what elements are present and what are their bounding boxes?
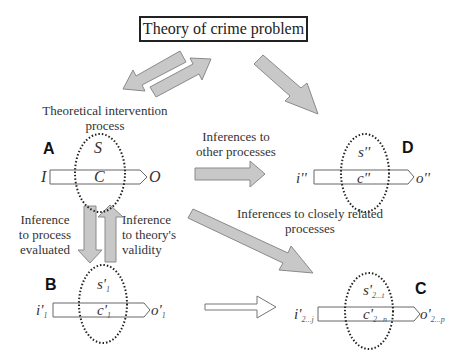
var-subscript: 1 (43, 311, 47, 320)
panel-d-input: i'' (296, 170, 307, 186)
var-main: o' (420, 306, 431, 322)
var-subscript: 1 (162, 311, 166, 320)
var-subscript: 2...p (431, 315, 445, 324)
arrow-inferences-other-processes (195, 161, 265, 187)
panel-a-content: C (94, 169, 105, 185)
label-line: Inferences to (186, 129, 286, 144)
var-subscript: 2...t (372, 291, 384, 300)
label-line: other processes (186, 144, 286, 159)
var-subscript: 2...j (301, 315, 313, 324)
panel-d-structure: s'' (358, 144, 370, 160)
panel-letter-b: B (45, 276, 57, 294)
title-text: Theory of crime problem (143, 20, 304, 38)
panel-c-structure: s'2...t (363, 282, 384, 304)
var-main: o' (151, 302, 162, 318)
panel-d-output: o'' (416, 170, 430, 186)
panel-b-content: c'1 (97, 302, 111, 324)
theory-of-crime-problem-box: Theory of crime problem (139, 16, 308, 42)
label-line: Inference (10, 212, 80, 227)
panel-a-input: I (41, 169, 46, 185)
label-line: process (35, 118, 175, 133)
var-subscript: 2...n (373, 315, 387, 324)
panel-b-structure: s'1 (97, 276, 110, 298)
label-line: processes (220, 221, 400, 236)
var-main: s' (363, 282, 372, 298)
arrow-inference-process-evaluated (78, 206, 102, 263)
label-line: Inference (122, 212, 176, 227)
panel-a-structure: S (94, 140, 102, 156)
panel-c-input: i'2...j (294, 306, 314, 328)
panel-d-content: c'' (357, 170, 370, 186)
var-subscript: 1 (107, 311, 111, 320)
label-line: validity (122, 242, 176, 257)
arrow-process-to-related-processes (205, 296, 276, 318)
var-subscript: 1 (106, 285, 110, 294)
panel-letter-c: C (415, 280, 427, 298)
label-line: to theory's (122, 227, 176, 242)
panel-letter-a: A (43, 140, 55, 158)
arrow-inference-theory-validity (98, 205, 123, 262)
var-main: s' (97, 276, 106, 292)
label-inferences-closely-related: Inferences to closely related processes (220, 206, 400, 236)
panel-b-input: i'1 (36, 302, 47, 324)
panel-letter-d: D (402, 139, 414, 157)
var-main: c' (363, 306, 373, 322)
panel-b-output: o'1 (151, 302, 166, 324)
arrow-theory-to-other-process (254, 55, 318, 114)
label-inferences-other: Inferences to other processes (186, 129, 286, 159)
label-inference-process-evaluated: Inference to process evaluated (10, 212, 80, 257)
label-inference-theory-validity: Inference to theory's validity (122, 212, 176, 257)
var-main: c' (97, 302, 107, 318)
diagram-canvas (0, 0, 465, 352)
label-theoretical-intervention: Theoretical intervention process (35, 103, 175, 133)
label-line: evaluated (10, 242, 80, 257)
panel-c-content: c'2...n (363, 306, 387, 328)
label-line: Theoretical intervention (35, 103, 175, 118)
label-line: Inferences to closely related (220, 206, 400, 221)
panel-c-output: o'2...p (420, 306, 445, 328)
panel-a-output: O (149, 169, 161, 185)
label-line: to process (10, 227, 80, 242)
